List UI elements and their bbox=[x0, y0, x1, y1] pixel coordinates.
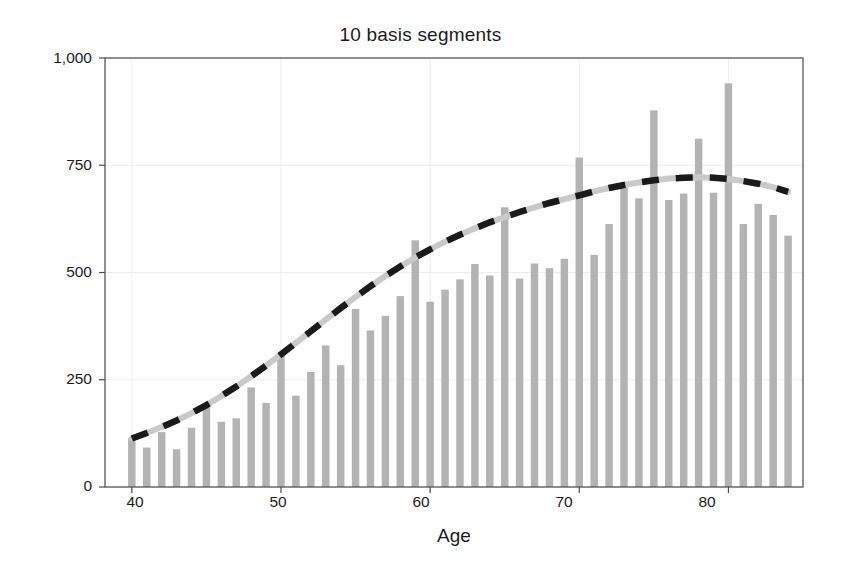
bar bbox=[501, 207, 508, 487]
bar bbox=[203, 405, 210, 487]
bar bbox=[247, 387, 254, 487]
bar bbox=[158, 432, 165, 487]
bar bbox=[173, 449, 180, 487]
chart-figure: 10 basis segments Counts 1,000 750 500 2… bbox=[0, 0, 841, 565]
bar bbox=[769, 215, 776, 487]
bar bbox=[710, 193, 717, 487]
bar bbox=[471, 264, 478, 487]
bar bbox=[650, 110, 657, 487]
bar bbox=[665, 200, 672, 487]
bar bbox=[740, 224, 747, 487]
bar bbox=[337, 365, 344, 487]
bar bbox=[382, 316, 389, 487]
bar-series bbox=[128, 83, 792, 487]
bar bbox=[307, 372, 314, 487]
bar bbox=[128, 438, 135, 487]
bar bbox=[322, 345, 329, 487]
plot-area bbox=[0, 0, 841, 565]
bar bbox=[531, 263, 538, 487]
bar bbox=[262, 403, 269, 487]
bar bbox=[725, 83, 732, 487]
bar bbox=[441, 290, 448, 487]
bar bbox=[233, 418, 240, 487]
bar bbox=[576, 158, 583, 487]
bar bbox=[680, 194, 687, 487]
bar bbox=[590, 255, 597, 487]
bar bbox=[784, 236, 791, 487]
bar bbox=[367, 330, 374, 487]
bar bbox=[486, 276, 493, 487]
bar bbox=[635, 198, 642, 487]
bar bbox=[352, 309, 359, 487]
bar bbox=[755, 204, 762, 487]
bar bbox=[546, 268, 553, 487]
bar bbox=[292, 396, 299, 487]
bar bbox=[516, 279, 523, 487]
bar bbox=[620, 185, 627, 487]
bar bbox=[397, 296, 404, 487]
bar bbox=[561, 259, 568, 487]
bar bbox=[456, 279, 463, 487]
bar bbox=[277, 354, 284, 487]
bar bbox=[143, 448, 150, 487]
bar bbox=[426, 302, 433, 487]
bar bbox=[188, 428, 195, 487]
bar bbox=[218, 422, 225, 487]
bar bbox=[411, 240, 418, 487]
bar bbox=[605, 224, 612, 487]
bar bbox=[695, 139, 702, 487]
